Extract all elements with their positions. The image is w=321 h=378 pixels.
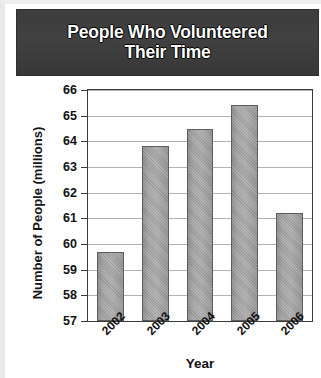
chart-figure: People Who Volunteered Their Time Number… xyxy=(0,0,321,378)
y-tick-label: 64 xyxy=(63,134,77,148)
plot-area: 57585960616263646566 xyxy=(87,89,313,322)
y-tick-mark xyxy=(81,218,87,219)
bar xyxy=(187,129,214,322)
y-tick-label: 60 xyxy=(63,237,77,251)
bar xyxy=(142,146,169,321)
chart-title-line-2: Their Time xyxy=(124,42,210,62)
gridline xyxy=(88,116,312,117)
gridline xyxy=(88,90,312,91)
y-tick-label: 63 xyxy=(63,160,77,174)
y-tick-mark xyxy=(81,116,87,117)
y-tick-mark xyxy=(81,321,87,322)
y-tick-label: 57 xyxy=(63,314,77,328)
y-tick-label: 58 xyxy=(63,288,77,302)
y-tick-label: 65 xyxy=(63,109,77,123)
y-tick-mark xyxy=(81,193,87,194)
chart-title: People Who Volunteered Their Time xyxy=(61,23,273,62)
chart-title-line-1: People Who Volunteered xyxy=(67,22,267,42)
y-tick-mark xyxy=(81,244,87,245)
y-tick-mark xyxy=(81,295,87,296)
bar xyxy=(276,213,303,321)
chart-plot-area-container: Number of People (millions) 575859606162… xyxy=(16,80,319,376)
chart-title-banner: People Who Volunteered Their Time xyxy=(16,9,319,76)
y-tick-label: 59 xyxy=(63,263,77,277)
y-tick-mark xyxy=(81,141,87,142)
y-tick-mark xyxy=(81,270,87,271)
bar xyxy=(231,105,258,321)
y-tick-mark xyxy=(81,167,87,168)
y-tick-mark xyxy=(81,90,87,91)
y-tick-label: 62 xyxy=(63,186,77,200)
y-tick-label: 66 xyxy=(63,83,77,97)
y-axis-title: Number of People (millions) xyxy=(26,108,48,318)
y-tick-label: 61 xyxy=(63,211,77,225)
x-axis-title: Year xyxy=(87,356,313,371)
